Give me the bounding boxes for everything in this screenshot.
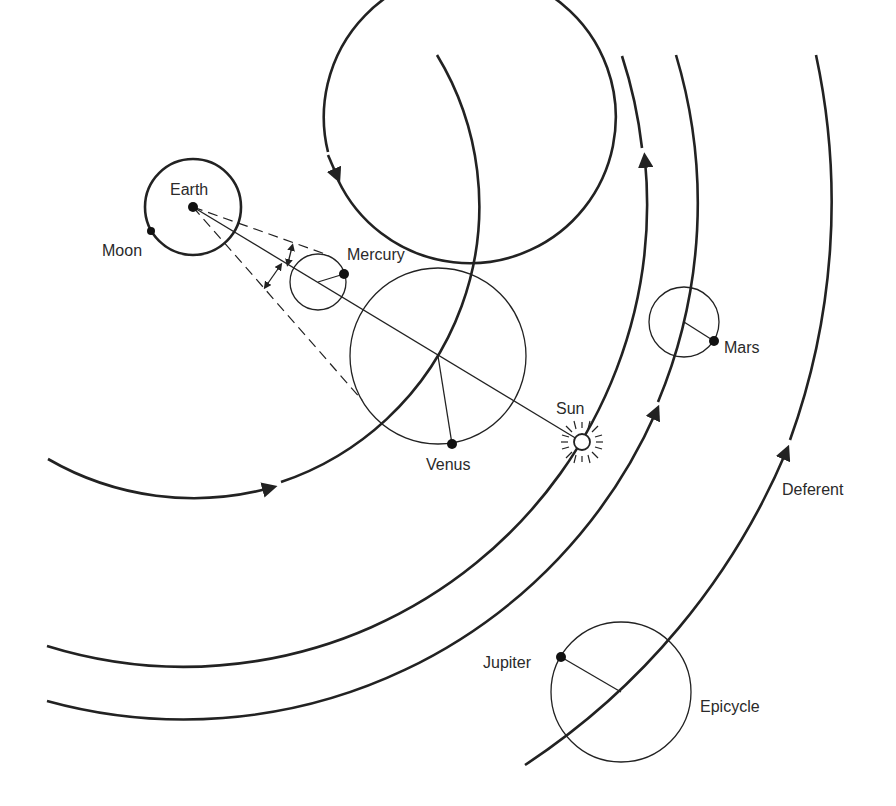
earth-sun-line — [193, 207, 582, 442]
mercury-deferent-arrow-icon — [328, 155, 337, 176]
jupiter-deferent-lower — [525, 452, 786, 765]
earth-dot — [188, 202, 198, 212]
epicycle-label: Epicycle — [700, 698, 760, 715]
jupiter-label: Jupiter — [483, 654, 532, 671]
venus-deferent-lower — [48, 459, 270, 498]
mars-radius — [684, 322, 714, 341]
sun-label: Sun — [556, 400, 584, 417]
mercury-dot — [339, 269, 349, 279]
jupiter-dot — [556, 652, 566, 662]
venus-dot — [447, 439, 457, 449]
sun-icon — [561, 421, 603, 463]
jupiter-radius — [561, 657, 621, 692]
moon-label: Moon — [102, 242, 142, 259]
mars-dot — [709, 336, 719, 346]
moon-dot — [147, 227, 155, 235]
deferent-label: Deferent — [782, 481, 844, 498]
elongation-angle-arrow-1 — [288, 247, 292, 263]
earth-label: Earth — [170, 181, 208, 198]
venus-label: Venus — [426, 456, 470, 473]
sun-deferent — [622, 56, 642, 148]
mercury-label: Mercury — [347, 246, 405, 263]
mars-deferent-lower — [47, 412, 656, 720]
mars-label: Mars — [724, 339, 760, 356]
jupiter-deferent — [790, 55, 832, 440]
venus-radius — [438, 356, 452, 444]
elongation-angle-arrow-2 — [266, 266, 280, 286]
ptolemaic-system-diagram: Earth Moon Mercury Venus Sun Mars Jupite… — [0, 0, 896, 806]
